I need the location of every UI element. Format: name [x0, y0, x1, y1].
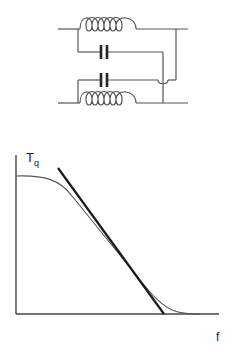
x-axis-label: f	[216, 330, 220, 344]
figure-canvas: Tq f	[0, 0, 235, 358]
circuit-diagram	[58, 18, 188, 106]
tangent-line	[58, 168, 164, 314]
response-curve	[16, 176, 200, 314]
bottom-inductor-icon	[80, 92, 136, 106]
top-inductor-icon	[80, 18, 136, 32]
y-axis-label: Tq	[26, 150, 39, 168]
frequency-response-chart: Tq f	[16, 150, 220, 344]
